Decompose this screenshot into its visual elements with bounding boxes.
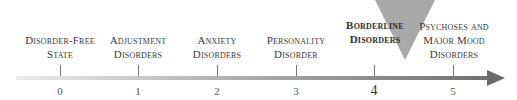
scale-value-3: 3 [286,85,306,97]
label-line: Disorders [404,47,504,61]
continuum-axis [16,76,494,80]
tick-0 [60,65,61,76]
tick-1 [138,65,139,76]
tick-2 [217,65,218,76]
tick-3 [296,65,297,76]
label-line: Psychoses and [404,19,504,33]
label-line: Major Mood [404,33,504,47]
arrow-right-icon [487,70,505,86]
label-psychoses-major-mood: Psychoses and Major Mood Disorders [404,19,504,61]
label-line: Disorder [246,47,346,61]
scale-value-2: 2 [207,85,227,97]
tick-5 [453,65,454,76]
tick-4 [374,65,375,76]
scale-value-5: 5 [443,85,463,97]
scale-value-4: 4 [364,83,384,99]
scale-value-0: 0 [50,85,70,97]
scale-value-1: 1 [128,85,148,97]
